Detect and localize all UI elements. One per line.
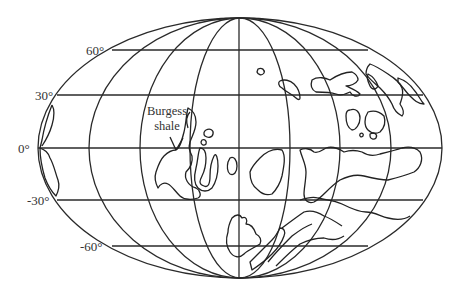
burgess-shale-label-line2: shale bbox=[143, 120, 191, 133]
landmass-gondwana-east bbox=[300, 147, 422, 202]
landmass-north-east-2 bbox=[366, 64, 403, 116]
island-3 bbox=[227, 157, 237, 174]
parallels bbox=[38, 50, 442, 246]
landmass-baltica bbox=[279, 80, 300, 100]
burgess-shale-label-line1: Burgess bbox=[143, 105, 191, 118]
landmass-central-small bbox=[195, 148, 218, 191]
landmass-east-4 bbox=[370, 133, 377, 139]
landmass-east-3 bbox=[360, 133, 364, 137]
landmass-east-1 bbox=[346, 109, 360, 130]
island-1 bbox=[204, 129, 213, 137]
latitude-label-0: 0° bbox=[18, 142, 30, 155]
latitude-label-m60: -60° bbox=[80, 240, 103, 253]
landmass-siberia bbox=[311, 72, 360, 96]
landmass-gondwana bbox=[250, 149, 284, 194]
island-2 bbox=[201, 140, 206, 145]
world-map bbox=[0, 0, 463, 294]
latitude-label-60: 60° bbox=[86, 44, 104, 57]
landmass-east-2 bbox=[365, 111, 385, 133]
latitude-label-m30: -30° bbox=[27, 194, 50, 207]
island-north bbox=[257, 68, 264, 74]
burgess-shale-label: Burgess shale bbox=[143, 105, 191, 132]
landmass-south-coast-2 bbox=[282, 211, 342, 228]
landmass-south-central bbox=[227, 215, 261, 257]
latitude-label-30: 30° bbox=[35, 89, 53, 102]
